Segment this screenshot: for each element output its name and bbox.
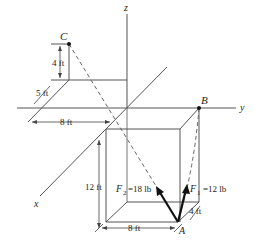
dim-label-12ft: 12 ft bbox=[85, 182, 102, 192]
dim-label-4ft-c: 4 ft bbox=[52, 58, 65, 68]
arrowhead bbox=[58, 73, 62, 78]
svg-text:F: F bbox=[115, 183, 123, 194]
point-c bbox=[67, 42, 71, 46]
force-f1-label: F 1 =12 lb bbox=[189, 183, 227, 197]
x-axis-label: x bbox=[33, 198, 39, 209]
svg-text:=12 lb: =12 lb bbox=[203, 184, 227, 194]
point-a-label: A bbox=[178, 225, 186, 236]
svg-text:2: 2 bbox=[123, 189, 127, 197]
z-axis-label: z bbox=[123, 2, 128, 13]
point-b-label: B bbox=[201, 94, 208, 106]
arrowhead bbox=[58, 46, 62, 51]
x-axis bbox=[40, 67, 167, 196]
arrowhead bbox=[97, 223, 101, 228]
arrowhead bbox=[102, 226, 107, 230]
svg-text:1: 1 bbox=[197, 189, 201, 197]
point-b bbox=[197, 106, 201, 110]
f1-arrowhead bbox=[182, 184, 190, 194]
box-top-right-diag bbox=[180, 108, 199, 129]
force-f2-arrow bbox=[159, 191, 178, 222]
box-bottom-left-diag bbox=[106, 202, 127, 222]
dim-label-4ft-box: 4 ft bbox=[189, 206, 202, 216]
dim-label-5ft: 5 ft bbox=[36, 88, 49, 98]
arrowhead bbox=[97, 140, 101, 145]
c-diagonal bbox=[28, 80, 69, 122]
force-f2-label: F 2 =18 lb bbox=[115, 183, 152, 197]
svg-text:F: F bbox=[189, 183, 197, 194]
svg-text:=18 lb: =18 lb bbox=[128, 184, 152, 194]
point-c-label: C bbox=[60, 30, 68, 42]
y-axis-label: y bbox=[239, 102, 245, 113]
dim-label-8ft-bottom: 8 ft bbox=[128, 223, 141, 233]
arrowhead bbox=[32, 120, 37, 124]
force-f1-arrow bbox=[178, 189, 186, 222]
arrowhead bbox=[170, 226, 175, 230]
force-diagram: z y x C B A 4 ft 5 ft 8 ft 12 ft 8 ft 4 … bbox=[0, 0, 255, 249]
arrowhead bbox=[105, 120, 110, 124]
dim-label-8ft-top: 8 ft bbox=[60, 117, 73, 127]
